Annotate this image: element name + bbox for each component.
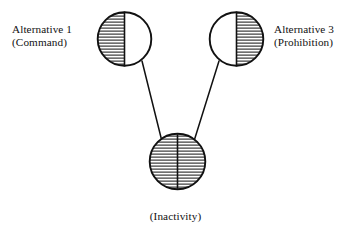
node-alternative-3 <box>210 10 266 68</box>
node-alternative-3-hatch-fill <box>237 10 266 68</box>
node-alternative-1 <box>96 10 151 68</box>
node-label-alternative-1-line1: Alternative 1 <box>12 23 72 36</box>
node-label-alternative-1: Alternative 1 (Command) <box>12 23 72 49</box>
node-label-inactivity: (Inactivity) <box>0 210 351 223</box>
node-inactivity <box>148 132 207 191</box>
edge-alternative1-to-inactivity <box>142 61 162 140</box>
node-label-alternative-1-line2: (Command) <box>12 36 72 49</box>
node-label-alternative-3: Alternative 3 (Prohibition) <box>274 23 334 49</box>
node-label-alternative-3-line2: (Prohibition) <box>274 36 334 49</box>
node-label-inactivity-line1: (Inactivity) <box>0 210 351 223</box>
node-label-alternative-3-line1: Alternative 3 <box>274 23 334 36</box>
edge-alternative3-to-inactivity <box>195 61 220 140</box>
edge-group <box>142 61 219 140</box>
diagram-canvas: Alternative 1 (Command) Alternative 3 (P… <box>0 0 351 234</box>
node-alternative-1-hatch-fill <box>96 10 125 68</box>
